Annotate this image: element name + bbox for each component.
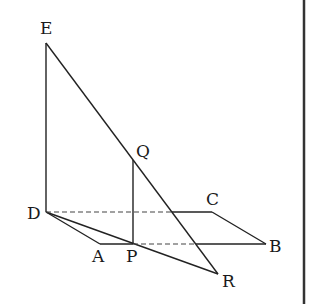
label-D: D <box>27 203 41 223</box>
label-R: R <box>222 271 236 291</box>
segment-ER <box>46 43 218 274</box>
segment-CB <box>212 212 266 244</box>
label-C: C <box>206 189 219 209</box>
diagram-svg: E D A P B C Q R <box>0 0 310 304</box>
label-A: A <box>91 246 105 266</box>
label-E: E <box>40 18 52 38</box>
label-Q: Q <box>136 141 150 161</box>
label-B: B <box>269 236 282 256</box>
label-P: P <box>126 246 137 266</box>
geometry-diagram: E D A P B C Q R <box>0 0 310 304</box>
